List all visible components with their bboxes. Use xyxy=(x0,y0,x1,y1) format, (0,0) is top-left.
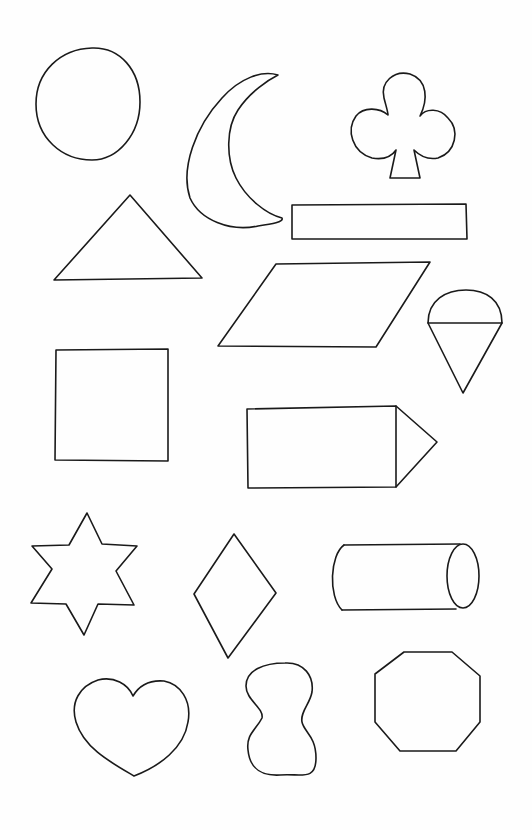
parallelogram-shape xyxy=(218,262,430,347)
star-shape xyxy=(31,513,137,635)
square-shape xyxy=(55,349,168,461)
diamond-shape xyxy=(194,534,276,658)
worksheet-canvas: Shapes worksheet xyxy=(0,0,532,830)
shapes-drawing xyxy=(0,0,532,830)
circle-shape xyxy=(36,48,140,160)
figure-eight-shape xyxy=(246,663,316,775)
club-shape xyxy=(351,73,455,178)
heart-shape xyxy=(74,679,189,776)
ice-cream-cone-shape xyxy=(428,290,502,393)
crescent-shape xyxy=(187,74,282,228)
octagon-shape xyxy=(375,652,480,751)
pencil-shape xyxy=(247,406,437,488)
cylinder-shape xyxy=(332,544,479,610)
rectangle-shape xyxy=(292,204,467,239)
triangle-shape xyxy=(54,195,202,280)
